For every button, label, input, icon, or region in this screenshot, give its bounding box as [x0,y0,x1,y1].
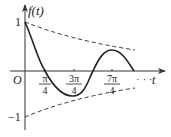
y-tick-label-1: 1 [15,15,21,29]
x-tick-label-pi-4: π 4 [39,73,51,96]
svg-text:4: 4 [72,85,77,96]
upper-envelope [25,22,135,50]
damped-curve [25,22,134,96]
y-axis-label: f(t) [28,3,44,18]
x-axis-label: t [152,73,156,87]
svg-text:7π: 7π [107,73,117,84]
x-tick-label-3pi-4: 3π 4 [66,73,82,96]
lower-envelope [25,88,135,117]
continuation-dots: · · · [136,73,153,85]
damped-oscillation-diagram: f(t) t O 1 −1 π 4 3π 4 7π 4 · · · [0,0,171,137]
svg-text:π: π [42,73,47,84]
origin-label: O [13,73,22,87]
svg-text:4: 4 [110,85,115,96]
svg-text:3π: 3π [69,73,79,84]
svg-text:4: 4 [43,85,48,96]
y-tick-label-neg1: −1 [8,110,21,124]
